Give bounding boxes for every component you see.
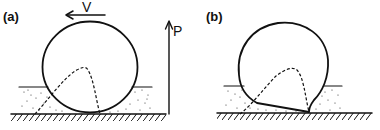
panel-a-label: (a) xyxy=(3,9,19,24)
pressure-distribution-b xyxy=(240,68,309,114)
ground-a xyxy=(11,114,166,121)
panel-b: (b) xyxy=(206,9,372,120)
panel-a: (a) xyxy=(3,0,182,121)
velocity-label: V xyxy=(82,0,92,15)
figure-canvas: (a) xyxy=(0,0,380,130)
deformable-tire xyxy=(239,23,328,112)
ground-b xyxy=(217,113,372,120)
load-arrow: P xyxy=(166,21,183,114)
load-label: P xyxy=(173,23,182,39)
velocity-arrow: V xyxy=(66,0,105,19)
soil-dots-a xyxy=(21,89,150,112)
rigid-wheel xyxy=(43,22,138,113)
panel-b-label: (b) xyxy=(206,9,223,24)
